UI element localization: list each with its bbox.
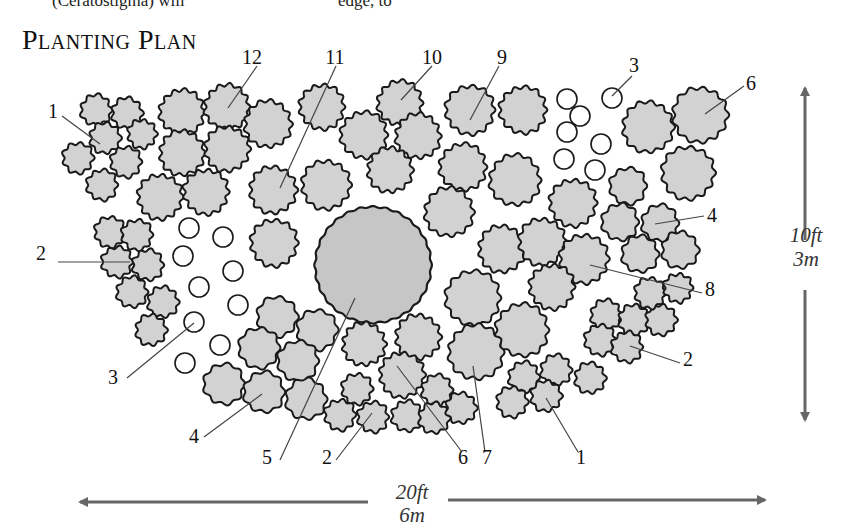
shrub (424, 186, 475, 237)
shrub (621, 234, 659, 273)
shrub (127, 119, 158, 149)
bulb-circle (223, 261, 243, 281)
width-dimension: 20ft 6m (80, 480, 765, 527)
plant-number-label: 9 (497, 46, 507, 68)
plant-number-label: 11 (325, 46, 344, 68)
shrub (249, 166, 298, 215)
shrub (518, 218, 567, 267)
shrub (183, 169, 230, 216)
bulb-circle (189, 277, 209, 297)
plant-number-label: 3 (108, 366, 118, 388)
shrub (609, 167, 647, 206)
shrub (499, 85, 548, 135)
bulb-circle (554, 149, 574, 169)
shrub (277, 340, 319, 383)
shrub (391, 399, 423, 432)
height-ft-label: 10ft (790, 223, 824, 247)
shrub (661, 146, 716, 201)
shrub (489, 153, 542, 206)
shrub (285, 377, 327, 420)
bulb-circle (602, 88, 622, 108)
shrub (204, 83, 251, 130)
height-m-label: 3m (792, 247, 819, 271)
shrub (445, 392, 478, 424)
shrub (204, 126, 251, 173)
plant-number-label: 2 (36, 242, 46, 264)
shrub (243, 370, 285, 413)
bulb-circle (210, 335, 230, 355)
plant-number-label: 6 (458, 446, 468, 468)
plant-number-label: 4 (707, 204, 717, 226)
height-dimension: 10ft 3m (790, 88, 824, 420)
shrub (574, 362, 607, 395)
leader-line (546, 398, 578, 452)
plant-number-label: 5 (262, 446, 272, 468)
shrub (672, 87, 729, 144)
bulb-circle (175, 353, 195, 373)
shrub (418, 401, 451, 434)
shrub (445, 269, 502, 326)
plant-number-label: 1 (48, 100, 58, 122)
shrub (663, 273, 694, 304)
shrub (86, 169, 118, 202)
shrub (238, 327, 280, 370)
shrub (159, 88, 206, 136)
tree-canopy (314, 206, 432, 324)
shrub (549, 179, 598, 228)
shrub (445, 85, 496, 136)
plant-number-label: 1 (576, 446, 586, 468)
bulb-circle (557, 89, 577, 109)
bulb-circle (179, 218, 199, 238)
shrub (116, 275, 149, 308)
tree-canopy-layer (314, 206, 432, 324)
shrub (496, 386, 529, 418)
bulb-circle (228, 295, 248, 315)
shrub (137, 174, 184, 221)
width-m-label: 6m (399, 503, 425, 527)
plant-number-label: 8 (705, 278, 715, 300)
plant-number-label: 10 (422, 46, 442, 68)
plant-number-label: 3 (629, 54, 639, 76)
width-ft-label: 20ft (396, 480, 430, 504)
shrub (203, 363, 245, 406)
bulb-circle (570, 106, 590, 126)
plant-number-label: 2 (322, 446, 332, 468)
planting-plan-page: (Ceratostigma) will edge, to Planting Pl… (0, 0, 850, 528)
shrub (324, 399, 356, 432)
shrub (622, 100, 675, 153)
bulb-circle (591, 134, 611, 154)
plant-number-label: 2 (683, 348, 693, 370)
bulb-circle (557, 122, 577, 142)
shrub (244, 99, 293, 148)
shrub (121, 219, 153, 252)
plant-number-label: 7 (482, 446, 492, 468)
leader-line (612, 76, 632, 96)
shrub (135, 314, 168, 346)
shrub (611, 330, 643, 363)
bulb-circle (173, 246, 193, 266)
shrub (601, 203, 639, 242)
bulb-circle (213, 227, 233, 247)
plant-number-label: 12 (242, 46, 262, 68)
shrub (439, 142, 488, 192)
shrub (250, 219, 299, 268)
plant-number-label: 6 (746, 72, 756, 94)
shrub (618, 304, 650, 336)
shrub (62, 142, 95, 175)
bulb-circle (585, 160, 605, 180)
shrub (342, 321, 387, 366)
planting-plan-diagram: 112111093648217625432 10ft 3m 20ft 6m (0, 0, 850, 528)
shrub (301, 160, 352, 211)
shrub (298, 84, 345, 131)
shrub (531, 380, 564, 412)
plant-number-label: 4 (189, 425, 199, 447)
